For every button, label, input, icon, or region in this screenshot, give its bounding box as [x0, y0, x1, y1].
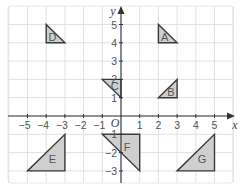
- triangle-label-d: D: [48, 31, 56, 43]
- x-tick-label: −1: [93, 119, 105, 131]
- x-axis-label: x: [231, 118, 238, 132]
- y-tick-label: 4: [111, 37, 117, 49]
- triangle-label-g: G: [198, 153, 207, 165]
- coordinate-grid-diagram: ABCDEFG−5−4−3−2−112345−3−2−112345xyO: [0, 0, 241, 190]
- triangle-label-e: E: [49, 153, 56, 165]
- x-tick-label: 3: [174, 119, 180, 131]
- x-tick-label: −2: [75, 119, 87, 131]
- y-tick-label: 2: [111, 73, 117, 85]
- y-axis-label: y: [109, 4, 116, 18]
- triangle-label-a: A: [161, 31, 169, 43]
- triangle-label-f: F: [124, 141, 131, 153]
- y-tick-label: 3: [111, 55, 117, 67]
- y-tick-label: −1: [105, 128, 117, 140]
- y-tick-label: 1: [111, 92, 117, 104]
- y-tick-label: −2: [105, 147, 117, 159]
- origin-label: O: [111, 116, 120, 130]
- grid-svg: ABCDEFG−5−4−3−2−112345−3−2−112345xyO: [0, 0, 241, 190]
- x-tick-label: 2: [155, 119, 161, 131]
- x-tick-label: 4: [193, 119, 199, 131]
- y-tick-label: −3: [105, 165, 117, 177]
- y-axis-arrow-icon: [118, 6, 125, 14]
- x-tick-label: −5: [19, 119, 31, 131]
- x-tick-label: 1: [137, 119, 143, 131]
- triangle-label-b: B: [167, 86, 174, 98]
- y-tick-label: 5: [111, 19, 117, 31]
- x-tick-label: −3: [56, 119, 68, 131]
- x-tick-label: −4: [37, 119, 49, 131]
- x-tick-label: 5: [212, 119, 218, 131]
